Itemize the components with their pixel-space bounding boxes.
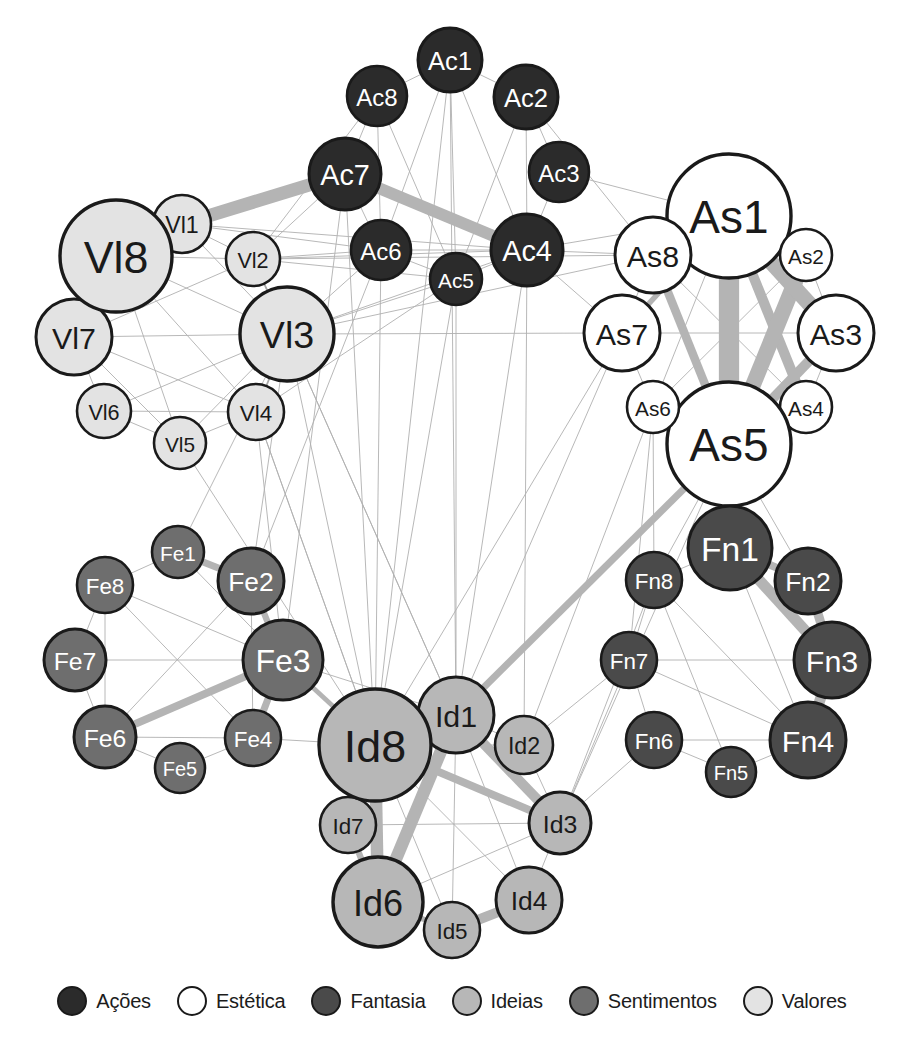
graph-node[interactable]: Ac6 xyxy=(351,220,411,280)
graph-node[interactable]: Fn7 xyxy=(601,632,657,688)
graph-node[interactable]: Vl4 xyxy=(228,384,284,440)
legend-item-ideias[interactable]: Ideias xyxy=(452,986,543,1016)
graph-node[interactable]: As5 xyxy=(667,382,791,506)
node-circle[interactable] xyxy=(770,702,846,778)
graph-edge xyxy=(456,250,527,715)
graph-node[interactable]: Fn2 xyxy=(775,548,841,614)
node-circle[interactable] xyxy=(320,797,376,853)
node-circle[interactable] xyxy=(418,28,482,92)
node-circle[interactable] xyxy=(798,295,874,371)
graph-node[interactable]: Fn5 xyxy=(706,747,756,797)
node-circle[interactable] xyxy=(430,253,482,305)
legend-item-fantasia[interactable]: Fantasia xyxy=(311,986,425,1016)
node-circle[interactable] xyxy=(225,710,281,766)
graph-edge xyxy=(560,580,654,823)
graph-node[interactable]: As3 xyxy=(798,295,874,371)
graph-node[interactable]: Fn6 xyxy=(626,712,682,768)
graph-node[interactable]: Id5 xyxy=(424,902,480,958)
node-circle[interactable] xyxy=(319,689,431,801)
graph-node[interactable]: As6 xyxy=(627,381,679,433)
node-circle[interactable] xyxy=(228,384,284,440)
node-circle[interactable] xyxy=(491,214,563,286)
node-circle[interactable] xyxy=(584,295,660,371)
graph-node[interactable]: Fe8 xyxy=(77,557,133,613)
graph-node[interactable]: Fe1 xyxy=(152,526,204,578)
node-circle[interactable] xyxy=(226,232,280,286)
graph-node[interactable]: Fn4 xyxy=(770,702,846,778)
node-circle[interactable] xyxy=(496,867,562,933)
graph-node[interactable]: Fe7 xyxy=(44,629,106,691)
node-circle[interactable] xyxy=(424,902,480,958)
legend-swatch-icon xyxy=(569,986,599,1016)
node-circle[interactable] xyxy=(780,229,832,281)
graph-node[interactable]: Fn8 xyxy=(626,552,682,608)
graph-node[interactable]: Id3 xyxy=(529,792,591,854)
node-circle[interactable] xyxy=(615,217,691,293)
graph-edge xyxy=(375,250,381,745)
legend-item-sentimentos[interactable]: Sentimentos xyxy=(569,986,717,1016)
node-circle[interactable] xyxy=(626,712,682,768)
graph-node[interactable]: Vl8 xyxy=(60,200,172,312)
graph-node[interactable]: Fn1 xyxy=(688,506,772,590)
node-circle[interactable] xyxy=(494,65,558,129)
node-circle[interactable] xyxy=(155,743,205,793)
graph-node[interactable]: Ac7 xyxy=(309,138,381,210)
legend-label: Fantasia xyxy=(350,990,425,1013)
graph-node[interactable]: Fe2 xyxy=(218,548,284,614)
graph-node[interactable]: Id6 xyxy=(333,857,423,947)
network-graph[interactable]: Ac1Ac2Ac3Ac4Ac5Ac6Ac7Ac8As1As2As3As4As5A… xyxy=(0,0,904,960)
graph-node[interactable]: Vl3 xyxy=(240,287,334,381)
graph-node[interactable]: Fn3 xyxy=(794,622,870,698)
graph-node[interactable]: As7 xyxy=(584,295,660,371)
node-circle[interactable] xyxy=(495,716,553,774)
graph-node[interactable]: Vl2 xyxy=(226,232,280,286)
node-circle[interactable] xyxy=(243,620,323,700)
node-circle[interactable] xyxy=(44,629,106,691)
graph-node[interactable]: Ac5 xyxy=(430,253,482,305)
graph-node[interactable]: Fe6 xyxy=(74,706,136,768)
node-circle[interactable] xyxy=(154,417,206,469)
node-circle[interactable] xyxy=(333,857,423,947)
legend-item-acoes[interactable]: Ações xyxy=(57,986,151,1016)
graph-node[interactable]: As2 xyxy=(780,229,832,281)
graph-node[interactable]: Id4 xyxy=(496,867,562,933)
graph-node[interactable]: Ac3 xyxy=(529,142,589,202)
node-circle[interactable] xyxy=(347,66,407,126)
node-circle[interactable] xyxy=(529,792,591,854)
node-circle[interactable] xyxy=(351,220,411,280)
graph-node[interactable]: Id7 xyxy=(320,797,376,853)
graph-node[interactable]: Ac4 xyxy=(491,214,563,286)
node-circle[interactable] xyxy=(218,548,284,614)
graph-node[interactable]: Ac2 xyxy=(494,65,558,129)
node-circle[interactable] xyxy=(627,381,679,433)
node-circle[interactable] xyxy=(77,557,133,613)
graph-node[interactable]: Id8 xyxy=(319,689,431,801)
graph-node[interactable]: Fe4 xyxy=(225,710,281,766)
legend-item-valores[interactable]: Valores xyxy=(743,986,847,1016)
node-circle[interactable] xyxy=(240,287,334,381)
node-circle[interactable] xyxy=(60,200,172,312)
graph-node[interactable]: As8 xyxy=(615,217,691,293)
node-circle[interactable] xyxy=(77,384,131,438)
node-circle[interactable] xyxy=(529,142,589,202)
node-circle[interactable] xyxy=(601,632,657,688)
graph-node[interactable]: Id2 xyxy=(495,716,553,774)
node-circle[interactable] xyxy=(688,506,772,590)
node-circle[interactable] xyxy=(775,548,841,614)
graph-node[interactable]: Ac8 xyxy=(347,66,407,126)
legend-item-estetica[interactable]: Estética xyxy=(177,986,286,1016)
graph-node[interactable]: Vl5 xyxy=(154,417,206,469)
graph-node[interactable]: Vl6 xyxy=(77,384,131,438)
node-circle[interactable] xyxy=(309,138,381,210)
node-circle[interactable] xyxy=(667,382,791,506)
graph-edge xyxy=(456,333,622,715)
node-circle[interactable] xyxy=(626,552,682,608)
node-circle[interactable] xyxy=(794,622,870,698)
node-circle[interactable] xyxy=(74,706,136,768)
node-circle[interactable] xyxy=(152,526,204,578)
graph-node[interactable]: Fe5 xyxy=(155,743,205,793)
graph-edge xyxy=(283,174,345,660)
node-circle[interactable] xyxy=(706,747,756,797)
graph-node[interactable]: Fe3 xyxy=(243,620,323,700)
graph-node[interactable]: Ac1 xyxy=(418,28,482,92)
